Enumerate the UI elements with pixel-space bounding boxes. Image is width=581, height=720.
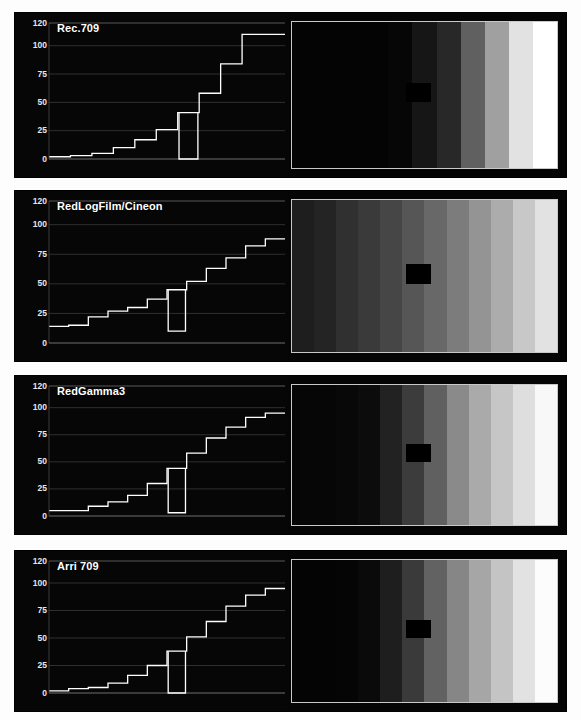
y-axis-tick-label: 0 (21, 689, 47, 698)
waveform-panel: 1201007550250RedLogFilm/Cineon (14, 190, 567, 362)
ramp-band (491, 200, 513, 352)
ramp-band (314, 385, 336, 525)
y-axis-tick-label: 25 (21, 484, 47, 493)
black-reference-patch (406, 620, 431, 638)
ramp-band (316, 22, 340, 168)
ramp-band (513, 560, 535, 702)
waveform-svg (15, 191, 287, 362)
waveform-trace (49, 589, 285, 691)
grayscale-ramp-container (287, 191, 566, 361)
ramp-band (336, 385, 358, 525)
ramp-band (533, 22, 557, 168)
waveform-plot: 1201007550250RedLogFilm/Cineon (15, 191, 287, 361)
y-axis-tick-label: 75 (21, 70, 47, 79)
ramp-band (358, 560, 380, 702)
ramp-band (447, 560, 469, 702)
waveform-notch-trace (179, 113, 198, 159)
ramp-band (336, 560, 358, 702)
black-reference-patch (406, 264, 431, 284)
black-reference-patch (406, 83, 431, 102)
ramp-band (292, 560, 314, 702)
y-axis-tick-labels: 1201007550250 (17, 13, 47, 177)
ramp-band (340, 22, 364, 168)
ramp-band (485, 22, 509, 168)
ramp-band (447, 385, 469, 525)
panel-content: 1201007550250RedLogFilm/Cineon (15, 191, 566, 361)
waveform-svg (15, 551, 287, 712)
waveform-plot: 1201007550250RedGamma3 (15, 376, 287, 534)
waveform-panel: 1201007550250Rec.709 (14, 12, 567, 178)
ramp-band (469, 560, 491, 702)
waveform-panel: 1201007550250RedGamma3 (14, 375, 567, 535)
y-axis-tick-label: 100 (21, 220, 47, 229)
ramp-band (336, 200, 358, 352)
y-axis-tick-labels: 1201007550250 (17, 551, 47, 711)
y-axis-tick-label: 75 (21, 606, 47, 615)
y-axis-tick-labels: 1201007550250 (17, 376, 47, 534)
y-axis-tick-label: 25 (21, 309, 47, 318)
ramp-band (535, 200, 557, 352)
waveform-svg (15, 13, 287, 178)
y-axis-tick-labels: 1201007550250 (17, 191, 47, 361)
ramp-band (513, 200, 535, 352)
y-axis-tick-label: 75 (21, 250, 47, 259)
grayscale-ramp-image (291, 199, 558, 353)
ramp-band (535, 385, 557, 525)
ramp-band (513, 385, 535, 525)
ramp-band (509, 22, 533, 168)
y-axis-tick-label: 120 (21, 19, 47, 28)
panel-content: 1201007550250RedGamma3 (15, 376, 566, 534)
waveform-svg (15, 376, 287, 535)
ramp-band (437, 22, 461, 168)
waveform-notch-trace (168, 651, 185, 693)
ramp-band (491, 385, 513, 525)
ramp-band (314, 200, 336, 352)
panel-title: RedGamma3 (57, 385, 125, 397)
y-axis-tick-label: 0 (21, 155, 47, 164)
y-axis-tick-label: 50 (21, 634, 47, 643)
ramp-band (469, 200, 491, 352)
figure-root: 1201007550250Rec.7091201007550250RedLogF… (0, 0, 581, 720)
ramp-band (314, 560, 336, 702)
y-axis-tick-label: 50 (21, 98, 47, 107)
waveform-trace (49, 34, 285, 156)
y-axis-tick-label: 0 (21, 339, 47, 348)
ramp-band (469, 385, 491, 525)
grayscale-ramp-image (291, 559, 558, 703)
ramp-band (380, 200, 402, 352)
grayscale-ramp-image (291, 384, 558, 526)
ramp-band (491, 560, 513, 702)
waveform-notch-trace (168, 468, 185, 512)
grayscale-ramp-container (287, 13, 566, 177)
waveform-plot: 1201007550250Rec.709 (15, 13, 287, 177)
grayscale-ramp-container (287, 376, 566, 534)
grayscale-ramp-container (287, 551, 566, 711)
y-axis-tick-label: 50 (21, 457, 47, 466)
grayscale-ramp-image (291, 21, 558, 169)
ramp-band (292, 385, 314, 525)
y-axis-tick-label: 120 (21, 197, 47, 206)
y-axis-tick-label: 0 (21, 512, 47, 521)
y-axis-tick-label: 100 (21, 579, 47, 588)
ramp-band (447, 200, 469, 352)
ramp-band (380, 560, 402, 702)
y-axis-tick-label: 25 (21, 126, 47, 135)
ramp-band (292, 22, 316, 168)
y-axis-tick-label: 100 (21, 41, 47, 50)
waveform-notch-trace (168, 290, 185, 331)
waveform-panel: 1201007550250Arri 709 (14, 550, 567, 712)
y-axis-tick-label: 50 (21, 279, 47, 288)
ramp-band (292, 200, 314, 352)
y-axis-tick-label: 25 (21, 661, 47, 670)
panel-content: 1201007550250Arri 709 (15, 551, 566, 711)
y-axis-tick-label: 75 (21, 430, 47, 439)
panel-title: Rec.709 (57, 22, 99, 34)
panel-title: Arri 709 (57, 560, 99, 572)
waveform-plot: 1201007550250Arri 709 (15, 551, 287, 711)
black-reference-patch (406, 444, 431, 462)
ramp-band (358, 200, 380, 352)
ramp-band (364, 22, 388, 168)
y-axis-tick-label: 120 (21, 382, 47, 391)
y-axis-tick-label: 120 (21, 557, 47, 566)
ramp-band (535, 560, 557, 702)
